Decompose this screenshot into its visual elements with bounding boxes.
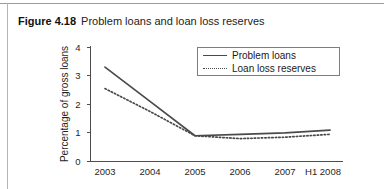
plot-area: 0 1 2 3 4 Percentage of gross loans 2003… [0, 0, 384, 189]
legend-dotted-line-icon [202, 64, 228, 74]
legend-item-problem-loans: Problem loans [202, 50, 335, 62]
y-tick-label-1: 1 [75, 127, 80, 138]
x-tick-label-2007: 2007 [274, 166, 295, 177]
x-tick-label-2004: 2004 [139, 166, 160, 177]
x-tick-label-h1-2008: H1 2008 [305, 166, 341, 177]
y-tick-label-2: 2 [75, 99, 80, 110]
legend-item-loan-loss-reserves: Loan loss reserves [202, 63, 335, 75]
y-tick-label-4: 4 [75, 42, 80, 53]
legend-label-problem-loans: Problem loans [232, 50, 296, 62]
x-tick-label-2005: 2005 [184, 166, 205, 177]
line-chart: 0 1 2 3 4 Percentage of gross loans 2003… [0, 0, 384, 189]
chart-legend: Problem loans Loan loss reserves [197, 47, 340, 76]
series-loan-loss-reserves [105, 89, 330, 139]
y-tick-label-3: 3 [75, 70, 80, 81]
figure-container: Figure 4.18Problem loans and loan loss r… [0, 0, 384, 189]
legend-solid-line-icon [202, 51, 228, 61]
x-tick-label-2003: 2003 [94, 166, 115, 177]
legend-label-loan-loss-reserves: Loan loss reserves [232, 63, 316, 75]
x-tick-label-2006: 2006 [229, 166, 250, 177]
y-tick-label-0: 0 [75, 156, 80, 167]
series-problem-loans [105, 67, 330, 136]
y-axis-label: Percentage of gross loans [59, 46, 70, 162]
y-tick-marks [87, 47, 91, 162]
